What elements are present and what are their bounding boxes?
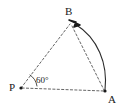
vertex-label-a: A bbox=[108, 94, 116, 105]
vertex-dot-p bbox=[19, 86, 22, 89]
angle-label-60-degrees: 60° bbox=[36, 76, 49, 85]
arc-a-to-b bbox=[75, 24, 106, 90]
geometry-figure: P A B 60° bbox=[0, 0, 126, 111]
vertex-label-p: P bbox=[9, 82, 15, 93]
vertex-dot-a bbox=[103, 89, 106, 92]
vertex-label-b: B bbox=[65, 6, 72, 17]
segment-p-to-a bbox=[22, 88, 104, 91]
segment-b-to-a bbox=[72, 26, 104, 90]
arrowhead-icon bbox=[69, 20, 80, 27]
